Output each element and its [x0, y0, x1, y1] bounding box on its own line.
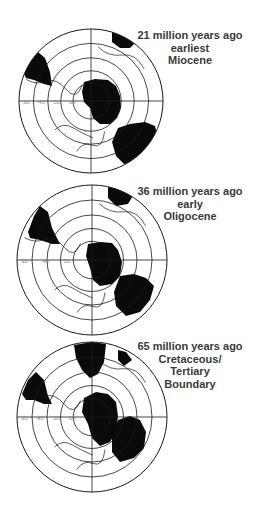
- landmass-south-america: [28, 206, 60, 244]
- latitude-label: 40: [37, 415, 44, 421]
- caption-line: Boundary: [131, 378, 249, 391]
- latitude-label: 30: [21, 415, 28, 421]
- latitude-label: 50: [53, 415, 60, 421]
- latitude-label: 50: [64, 258, 71, 264]
- caption-line: 21 million years ago: [131, 29, 249, 42]
- latitude-label: 60: [69, 415, 76, 421]
- caption-line: early: [131, 198, 249, 211]
- caption-line: Cretaceous/: [131, 353, 249, 366]
- caption-line: 36 million years ago: [131, 185, 249, 198]
- caption-line: earliest: [131, 42, 249, 55]
- caption-line: Miocene: [131, 54, 249, 67]
- landmass-antarctica: [82, 79, 121, 124]
- caption-line: Oligocene: [131, 210, 249, 223]
- caption-miocene: 21 million years ago earliest Miocene: [131, 29, 249, 67]
- caption-oligocene: 36 million years ago early Oligocene: [131, 185, 249, 223]
- latitude-label: 30: [21, 258, 28, 264]
- caption-line: Tertiary: [131, 365, 249, 378]
- latitude-label: 30: [23, 99, 30, 105]
- caption-cretaceous-tertiary: 65 million years ago Cretaceous/ Tertiar…: [131, 340, 249, 390]
- latitude-label: 40: [42, 258, 49, 264]
- latitude-label: 60: [69, 99, 76, 105]
- caption-line: 65 million years ago: [131, 340, 249, 353]
- paleogeography-maps: 3040506030405030405060: [0, 0, 259, 517]
- latitude-label: 40: [38, 99, 45, 105]
- latitude-label: 50: [54, 99, 61, 105]
- landmass-australia: [112, 416, 146, 462]
